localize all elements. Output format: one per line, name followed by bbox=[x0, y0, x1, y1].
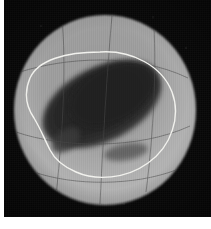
page-margin-left bbox=[0, 0, 4, 229]
limb-shading bbox=[14, 15, 196, 205]
planet-disk-svg bbox=[4, 0, 211, 217]
screenshot-root bbox=[0, 0, 211, 229]
disk-surface-group bbox=[14, 15, 196, 205]
planetary-photograph bbox=[4, 0, 211, 217]
page-margin-bottom bbox=[0, 217, 211, 229]
disk-render-layer bbox=[4, 0, 211, 217]
